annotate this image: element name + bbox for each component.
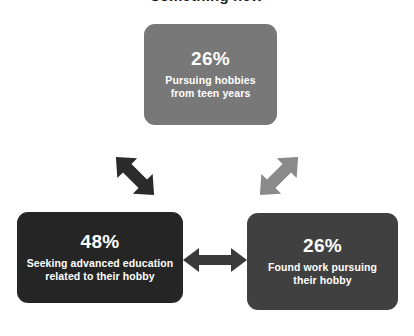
infographic-canvas: something new 26% Pursuing hobbies from … [0,0,414,336]
page-title: something new [0,0,414,4]
double-arrow-horizontal-icon [181,244,249,276]
node-right-caption: Found work pursuing their hobby [255,261,390,288]
node-seeking-education[interactable]: 48% Seeking advanced education related t… [17,212,183,303]
node-top-caption: Pursuing hobbies from teen years [152,74,269,101]
double-arrow-right-diagonal-icon [248,145,310,207]
node-right-percent: 26% [303,236,342,257]
double-arrow-left-diagonal-icon [104,145,166,207]
node-left-percent: 48% [81,232,120,253]
page-title-clip: something new [0,0,414,6]
node-top-percent: 26% [191,49,230,70]
node-pursuing-hobbies[interactable]: 26% Pursuing hobbies from teen years [144,24,277,125]
node-found-work[interactable]: 26% Found work pursuing their hobby [247,213,398,310]
node-left-caption: Seeking advanced education related to th… [25,257,175,284]
